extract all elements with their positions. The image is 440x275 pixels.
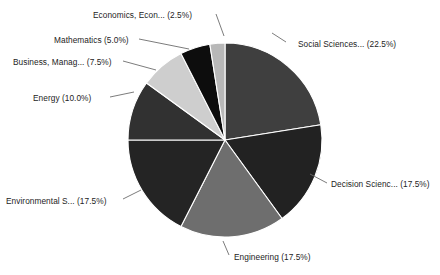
slice-label: Decision Scienc... (17.5%) [331, 179, 430, 189]
slice-label: Engineering (17.5%) [234, 252, 311, 262]
pie-slices-group [128, 43, 322, 237]
leader-line [223, 241, 229, 255]
leader-line [139, 39, 189, 49]
pie-chart-canvas: Social Sciences... (22.5%)Decision Scien… [0, 0, 440, 275]
leader-line [123, 61, 156, 70]
slice-label: Business, Manag... (7.5%) [13, 57, 112, 67]
slice-label: Social Sciences... (22.5%) [298, 39, 396, 49]
slice-label: Economics, Econ... (2.5%) [93, 10, 192, 20]
pie-slice[interactable] [225, 43, 321, 140]
leader-line [110, 92, 134, 97]
leader-line [272, 33, 286, 42]
slice-label: Environmental S... (17.5%) [6, 196, 107, 206]
slice-label: Energy (10.0%) [33, 93, 92, 103]
pie-chart: Social Sciences... (22.5%)Decision Scien… [0, 0, 440, 275]
leader-line [123, 190, 141, 199]
slice-label: Mathematics (5.0%) [54, 35, 129, 45]
leader-line [216, 14, 224, 36]
